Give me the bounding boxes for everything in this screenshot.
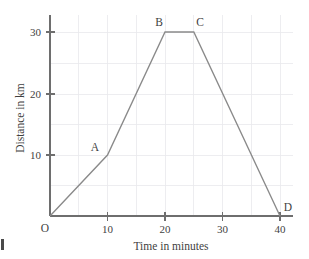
ytick-label-20: 20 [30, 88, 42, 100]
point-labels: A B C D [91, 16, 292, 213]
page-edge-artifact [1, 239, 4, 250]
x-axis-title: Time in minutes [134, 240, 209, 252]
gridlines [50, 15, 293, 216]
xtick-label-30: 30 [217, 223, 229, 235]
point-label-c: C [196, 16, 204, 28]
xtick-label-10: 10 [102, 223, 114, 235]
y-tick-labels: 30 20 10 [30, 26, 42, 161]
ytick-label-30: 30 [30, 26, 42, 38]
ytick-label-10: 10 [30, 149, 42, 161]
horizontal-gridlines [50, 32, 293, 186]
point-label-b: B [155, 16, 163, 28]
chart-canvas: 30 20 10 10 20 30 40 O A B C D Time in m… [0, 0, 309, 259]
y-axis-title: Distance in km [14, 83, 26, 153]
x-tick-labels: 10 20 30 40 [102, 223, 286, 235]
xtick-label-40: 40 [275, 223, 287, 235]
point-label-a: A [91, 141, 100, 153]
origin-label: O [41, 222, 49, 234]
point-label-d: D [284, 201, 292, 213]
distance-time-chart: 30 20 10 10 20 30 40 O A B C D Time in m… [0, 0, 309, 259]
xtick-label-20: 20 [160, 223, 172, 235]
